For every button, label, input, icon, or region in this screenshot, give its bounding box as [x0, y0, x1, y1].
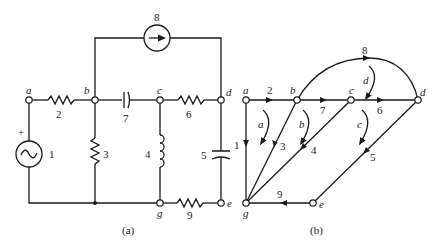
- resistor-2: [48, 96, 74, 104]
- graph-node-label-g: g: [243, 207, 249, 219]
- label-2: 2: [56, 108, 62, 120]
- label-4: 4: [145, 148, 151, 160]
- graph-node-label-d: d: [420, 86, 426, 98]
- label-3: 3: [103, 148, 109, 160]
- branch-label-8: 8: [362, 44, 368, 56]
- mesh-label-a: a: [258, 118, 264, 130]
- node-b: [92, 97, 98, 103]
- arrow-right-icon: [266, 97, 273, 103]
- circuit-figure: a b c d e g + 1 2 3 4 5 6 7 8 9 (a): [0, 0, 441, 249]
- inductor-4: [160, 135, 164, 167]
- label-8: 8: [154, 11, 160, 23]
- node-a: [26, 97, 32, 103]
- voltage-source-1: [16, 141, 42, 167]
- graph-node-b: [294, 97, 300, 103]
- graph-node-label-b: b: [290, 84, 296, 96]
- node-label-g: g: [157, 207, 163, 219]
- label-6: 6: [186, 108, 192, 120]
- label-7: 7: [123, 112, 129, 124]
- arrow-left-icon: [280, 200, 287, 206]
- label-5: 5: [201, 149, 207, 161]
- branch-label-9: 9: [277, 188, 283, 200]
- node-label-a: a: [26, 84, 32, 96]
- arrow-right-icon: [158, 35, 166, 42]
- node-e: [218, 200, 224, 206]
- branch-label-1: 1: [234, 139, 240, 151]
- caption-b: (b): [310, 224, 323, 237]
- resistor-3: [91, 138, 99, 164]
- graph-node-label-a: a: [243, 84, 249, 96]
- resistor-6: [178, 96, 204, 104]
- circuit-schematic: a b c d e g + 1 2 3 4 5 6 7 8 9 (a): [16, 11, 232, 237]
- label-9: 9: [187, 209, 193, 221]
- graph-node-c: [348, 97, 354, 103]
- arrow-right-icon: [377, 97, 384, 103]
- node-label-b: b: [84, 84, 90, 96]
- branch-label-6: 6: [377, 104, 383, 116]
- node-g: [157, 200, 163, 206]
- branch-label-7: 7: [320, 104, 326, 116]
- plus-sign: +: [18, 126, 24, 138]
- capacitor-7: [124, 92, 130, 108]
- caption-a: (a): [122, 224, 135, 237]
- graph-node-a: [243, 97, 249, 103]
- node-label-c: c: [157, 84, 162, 96]
- branch-label-5: 5: [370, 151, 376, 163]
- node-d: [218, 97, 224, 103]
- graph-node-label-c: c: [349, 84, 354, 96]
- graph-node-g: [243, 200, 249, 206]
- arrow-down-icon: [243, 140, 249, 147]
- branch-label-4: 4: [311, 144, 317, 156]
- node-label-e: e: [227, 197, 232, 209]
- circuit-graph: a b c d e g 1 2 3 4 5 6 7 8 9 a b c d (b…: [234, 44, 426, 237]
- resistor-9: [177, 199, 203, 207]
- label-1: 1: [49, 148, 55, 160]
- graph-node-label-e: e: [319, 198, 324, 210]
- mesh-label-d: d: [363, 74, 369, 86]
- current-source-8: [144, 25, 170, 51]
- node-label-d: d: [226, 86, 232, 98]
- mesh-label-c: c: [357, 118, 362, 130]
- branch-label-3: 3: [280, 140, 286, 152]
- arrow-right-icon: [320, 97, 327, 103]
- branch-label-2: 2: [267, 84, 273, 96]
- mesh-arrow-c: [361, 110, 368, 142]
- graph-node-e: [310, 200, 316, 206]
- mesh-label-b: b: [299, 118, 305, 130]
- node-c: [157, 97, 163, 103]
